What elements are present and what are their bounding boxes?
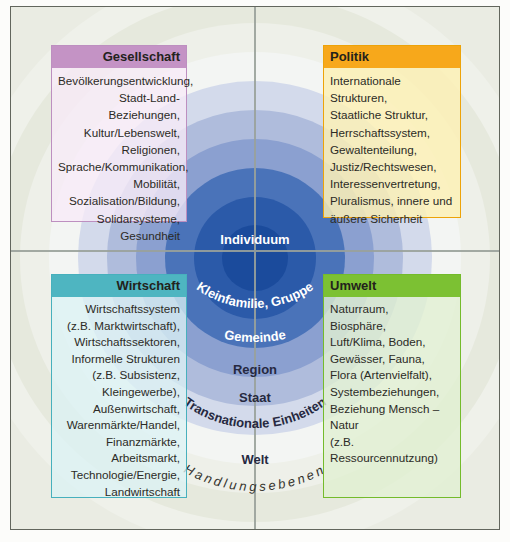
quadrant-politik: Politik Internationale Strukturen, Staat… bbox=[323, 45, 461, 218]
quadrant-gesellschaft-title: Gesellschaft bbox=[52, 46, 186, 68]
quadrant-politik-title: Politik bbox=[324, 46, 460, 68]
quadrant-wirtschaft: Wirtschaft Wirtschaftssystem (z.B. Markt… bbox=[51, 274, 187, 498]
quadrant-gesellschaft-topics: Bevölkerungsentwicklung, Stadt-Land-Bezi… bbox=[52, 68, 186, 244]
quadrant-politik-topics: Internationale Strukturen, Staatliche St… bbox=[324, 68, 460, 227]
screenshot-stage: Individuum Kleinfamilie, Gruppe Gemeinde… bbox=[0, 0, 510, 542]
quadrant-umwelt-topics: Naturraum, Biosphäre, Luft/Klima, Boden,… bbox=[324, 297, 460, 467]
ring-label-region: Region bbox=[233, 362, 277, 377]
quadrant-umwelt: Umwelt Naturraum, Biosphäre, Luft/Klima,… bbox=[323, 274, 461, 498]
ring-label-welt: Welt bbox=[241, 452, 269, 467]
quadrant-wirtschaft-title: Wirtschaft bbox=[52, 275, 186, 297]
diagram-card: Individuum Kleinfamilie, Gruppe Gemeinde… bbox=[10, 6, 500, 530]
ring-label-individuum: Individuum bbox=[220, 232, 289, 247]
ring-label-staat: Staat bbox=[239, 390, 271, 405]
quadrant-wirtschaft-topics: Wirtschaftssystem (z.B. Marktwirtschaft)… bbox=[52, 297, 186, 500]
quadrant-umwelt-title: Umwelt bbox=[324, 275, 460, 297]
quadrant-gesellschaft: Gesellschaft Bevölkerungsentwicklung, St… bbox=[51, 45, 187, 222]
